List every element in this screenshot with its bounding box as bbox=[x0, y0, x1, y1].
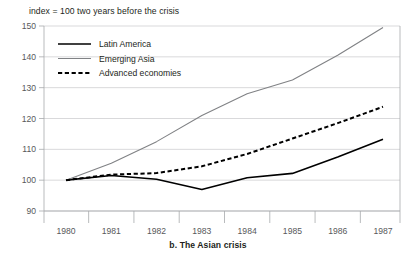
x-tick-label: 1982 bbox=[147, 226, 166, 236]
x-tick-label: 1986 bbox=[328, 226, 347, 236]
x-tick-label: 1985 bbox=[283, 226, 302, 236]
y-axis-tick-labels: 15014013012011010090 bbox=[22, 21, 37, 216]
axis-lines-group bbox=[44, 26, 400, 223]
gridlines-group bbox=[44, 26, 400, 211]
x-tick-label: 1987 bbox=[373, 226, 392, 236]
y-tick-label: 90 bbox=[26, 206, 36, 216]
figure-caption: b. The Asian crisis bbox=[0, 240, 416, 250]
y-tick-label: 140 bbox=[22, 52, 37, 62]
x-tick-label: 1981 bbox=[102, 226, 121, 236]
y-tick-label: 120 bbox=[22, 114, 37, 124]
y-tick-label: 150 bbox=[22, 21, 37, 31]
x-tick-label: 1983 bbox=[192, 226, 211, 236]
y-tick-label: 100 bbox=[22, 175, 37, 185]
series-line-latin-america bbox=[66, 139, 383, 189]
y-tick-label: 130 bbox=[22, 83, 37, 93]
x-tick-label: 1984 bbox=[238, 226, 257, 236]
chart-legend: Latin AmericaEmerging AsiaAdvanced econo… bbox=[58, 39, 181, 78]
chart-figure: index = 100 two years before the crisis … bbox=[0, 0, 416, 260]
x-axis-tick-labels: 19801981198219831984198519861987 bbox=[56, 226, 392, 236]
legend-label-advanced-economies: Advanced economies bbox=[99, 68, 181, 78]
line-chart-plot: 15014013012011010090 1980198119821983198… bbox=[0, 0, 416, 260]
series-line-advanced-economies bbox=[66, 107, 383, 180]
legend-label-emerging-asia: Emerging Asia bbox=[99, 54, 155, 64]
y-tick-label: 110 bbox=[22, 144, 36, 154]
tick-marks-group bbox=[39, 26, 360, 223]
data-series-group bbox=[66, 28, 383, 190]
legend-label-latin-america: Latin America bbox=[99, 39, 151, 49]
x-tick-label: 1980 bbox=[56, 226, 75, 236]
